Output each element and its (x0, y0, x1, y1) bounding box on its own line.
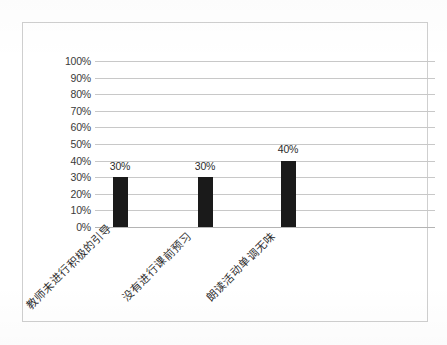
gridline (95, 177, 435, 178)
y-tick-label: 100% (45, 56, 91, 66)
x-category-label: 朗读活动单调无味 (204, 230, 278, 304)
bar (198, 177, 213, 227)
y-tick-label: 10% (45, 205, 91, 215)
y-tick-label: 50% (45, 139, 91, 149)
gridline (95, 127, 435, 128)
gridline-baseline (95, 227, 435, 228)
y-tick-label: 40% (45, 156, 91, 166)
bar-value-label: 40% (265, 144, 311, 155)
bar-value-label: 30% (97, 161, 143, 172)
y-axis: 100% 90% 80% 70% 60% 50% 40% 30% 20% 10%… (45, 61, 91, 227)
gridline (95, 78, 435, 79)
gridline (95, 94, 435, 95)
gridline (95, 111, 435, 112)
y-tick-label: 20% (45, 189, 91, 199)
x-category-label: 没有进行课前预习 (120, 230, 194, 304)
gridline (95, 194, 435, 195)
y-tick-label: 90% (45, 73, 91, 83)
x-category-label: 教师未进行积极的引导 (24, 221, 115, 312)
bar-value-label: 30% (182, 161, 228, 172)
y-tick-label: 60% (45, 122, 91, 132)
bar (281, 161, 296, 227)
plot-area: 30% 30% 40% (95, 61, 435, 227)
gridline (95, 210, 435, 211)
bar (113, 177, 128, 227)
y-tick-label: 30% (45, 172, 91, 182)
y-tick-label: 80% (45, 89, 91, 99)
chart-frame: 100% 90% 80% 70% 60% 50% 40% 30% 20% 10%… (22, 22, 428, 322)
y-tick-label: 70% (45, 106, 91, 116)
gridline (95, 61, 435, 62)
gridline (95, 161, 435, 162)
y-tick-label: 0% (45, 222, 91, 232)
